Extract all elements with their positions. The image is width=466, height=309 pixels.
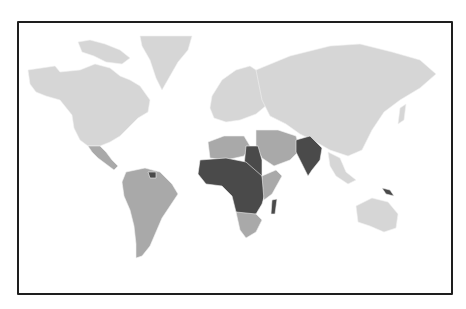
region-mexico — [88, 146, 118, 170]
region-japan — [398, 104, 406, 124]
region-north-africa — [208, 136, 250, 160]
region-canada-islands — [78, 40, 130, 64]
region-middle-east — [256, 130, 300, 166]
region-south-america — [122, 168, 178, 258]
region-north-america — [28, 64, 150, 146]
region-greenland — [140, 36, 192, 90]
region-southeast-asia — [328, 152, 356, 184]
region-madagascar — [271, 199, 277, 214]
region-east-africa — [262, 170, 282, 200]
region-southern-africa — [236, 212, 262, 238]
region-papua-new-guinea — [382, 188, 394, 196]
region-australia — [356, 198, 398, 232]
world-map — [0, 0, 466, 309]
